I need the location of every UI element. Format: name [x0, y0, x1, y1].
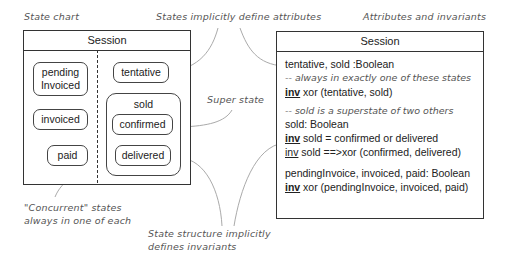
- invariant-text: xor (tentative, sold): [300, 86, 392, 98]
- state-paid[interactable]: paid: [47, 145, 88, 166]
- comment-superstate: -- sold is a superstate of two others: [285, 105, 453, 116]
- comment-exactly-one: -- always in exactly one of these states: [285, 72, 471, 83]
- concurrent-label-line2: always in one of each: [24, 215, 131, 226]
- inv-keyword: inv: [285, 181, 300, 193]
- state-label: delivered: [122, 149, 165, 162]
- state-label: invoiced: [41, 113, 80, 126]
- state-tentative[interactable]: tentative: [113, 62, 169, 83]
- concurrency-divider: [97, 50, 98, 183]
- state-label: tentative: [121, 66, 161, 79]
- attr-pending-invoiced-paid: pendingInvoice, invoiced, paid: Boolean: [285, 167, 470, 179]
- attr-sold: sold: Boolean: [285, 118, 349, 130]
- structure-label-line1: State structure implicitly: [148, 228, 271, 239]
- inv-keyword: inv: [285, 86, 300, 98]
- attr-tentative-sold: tentative, sold :Boolean: [285, 58, 394, 70]
- state-label: pending: [42, 66, 79, 79]
- states-define-attributes-label: States implicitly define attributes: [156, 11, 321, 22]
- state-invoiced[interactable]: invoiced: [33, 109, 88, 130]
- state-delivered[interactable]: delivered: [115, 145, 171, 166]
- invariant-text: sold ==>xor (confirmed, delivered): [298, 146, 461, 158]
- state-chart-label: State chart: [24, 11, 79, 22]
- class-box: Session tentative, sold :Boolean -- alwa…: [276, 31, 484, 219]
- state-label: Invoiced: [41, 79, 80, 92]
- state-label: confirmed: [119, 118, 165, 131]
- invariant-sold-implies-xor: inv sold ==>xor (confirmed, delivered): [285, 146, 461, 158]
- state-confirmed[interactable]: confirmed: [112, 114, 173, 135]
- invariant-sold-equals: inv sold = confirmed or delivered: [285, 132, 438, 144]
- state-chart-title: Session: [24, 31, 190, 51]
- class-box-title: Session: [277, 32, 483, 52]
- invariant-text: sold = confirmed or delivered: [300, 132, 438, 144]
- attributes-and-invariants-label: Attributes and invariants: [363, 11, 486, 22]
- state-label: paid: [58, 149, 78, 162]
- invariant-xor-tentative-sold: inv xor (tentative, sold): [285, 86, 392, 98]
- inv-keyword: inv: [285, 132, 300, 144]
- super-state-label: Super state: [207, 94, 264, 105]
- inv-keyword: inv: [285, 146, 298, 158]
- state-pending-invoiced[interactable]: pending Invoiced: [33, 62, 88, 96]
- superstate-label: sold: [107, 98, 180, 110]
- invariant-text: xor (pendingInvoice, invoiced, paid): [300, 181, 468, 193]
- structure-label-line2: defines invariants: [148, 241, 236, 252]
- concurrent-label-line1: "Concurrent" states: [24, 202, 122, 213]
- invariant-xor-pending-invoiced-paid: inv xor (pendingInvoice, invoiced, paid): [285, 181, 468, 193]
